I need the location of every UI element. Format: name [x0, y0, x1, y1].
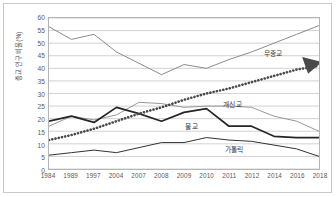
- plot-area: 무종교개신교불교가톨릭: [48, 17, 320, 170]
- x-tick-2018: 2018: [305, 172, 335, 179]
- series-label-가톨릭: 가톨릭: [225, 144, 244, 154]
- y-tick-45: 45: [1, 52, 45, 59]
- series-label-개신교: 개신교: [223, 99, 242, 109]
- y-tick-30: 30: [1, 90, 45, 97]
- y-tick-25: 25: [1, 103, 45, 110]
- y-tick-15: 15: [1, 128, 45, 135]
- y-tick-50: 50: [1, 39, 45, 46]
- series-label-무종교: 무종교: [264, 48, 283, 58]
- series-label-불교: 불교: [185, 121, 197, 131]
- chart-container: 종교 인구 비율(%) 605550454035302520151050 무종교…: [0, 0, 336, 197]
- y-tick-55: 55: [1, 26, 45, 33]
- data-series-layer: [49, 18, 319, 169]
- y-tick-40: 40: [1, 65, 45, 72]
- y-tick-35: 35: [1, 77, 45, 84]
- x-axis-tick-labels: 1984198919972004200720082009201020112012…: [48, 172, 320, 188]
- y-axis-tick-labels: 605550454035302520151050: [0, 17, 45, 170]
- y-tick-20: 20: [1, 116, 45, 123]
- y-tick-60: 60: [1, 14, 45, 21]
- y-tick-10: 10: [1, 141, 45, 148]
- y-tick-5: 5: [1, 154, 45, 161]
